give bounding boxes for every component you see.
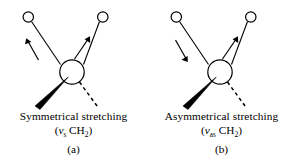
caption-b: Asymmetrical stretching (νas CH2) (b) <box>148 110 295 156</box>
caption-symbol-a: (νs CH2) <box>0 123 147 142</box>
caption-a: Symmetrical stretching (νs CH2) (a) <box>0 110 147 156</box>
caption-symbol-b: (νas CH2) <box>148 123 295 142</box>
molecule-diagram-b <box>148 2 295 112</box>
wedge-bond <box>183 77 216 109</box>
left-motion-arrow-down-right <box>176 40 188 62</box>
panel-symmetrical-stretching: Symmetrical stretching (νs CH2) (a) <box>0 0 147 163</box>
right-hydrogen-atom-circle <box>246 12 256 22</box>
right-motion-arrow-up-right <box>75 36 91 59</box>
caption-mode-a: Symmetrical stretching <box>0 110 147 123</box>
panel-label-a: (a) <box>0 142 147 156</box>
caption-mode-b: Asymmetrical stretching <box>148 110 295 123</box>
panel-asymmetrical-stretching: Asymmetrical stretching (νas CH2) (b) <box>148 0 295 163</box>
paren-close-b: ) <box>238 124 242 136</box>
carbon-atom-circle <box>60 60 84 84</box>
right-hydrogen-atom-circle <box>98 12 108 22</box>
carbon-atom-circle <box>208 60 232 84</box>
dashed-bond <box>228 82 247 108</box>
bond-carbon-left-hydrogen <box>32 22 61 65</box>
right-motion-arrow-up-right <box>223 36 239 59</box>
dashed-bond <box>80 82 99 108</box>
left-hydrogen-atom-circle <box>23 12 33 22</box>
wedge-bond <box>35 77 68 109</box>
nu-subscript-b: as <box>210 131 216 139</box>
nu-subscript-a: s <box>63 131 66 139</box>
left-hydrogen-atom-circle <box>171 12 181 22</box>
bond-carbon-left-hydrogen <box>180 22 209 65</box>
formula-b: CH <box>219 124 235 136</box>
left-motion-arrow-up-left <box>25 38 38 60</box>
figure-root: Symmetrical stretching (νs CH2) (a) <box>0 0 295 163</box>
formula-a: CH <box>69 124 85 136</box>
molecule-diagram-a <box>0 2 147 112</box>
panel-label-b: (b) <box>148 142 295 156</box>
paren-close-a: ) <box>89 124 93 136</box>
